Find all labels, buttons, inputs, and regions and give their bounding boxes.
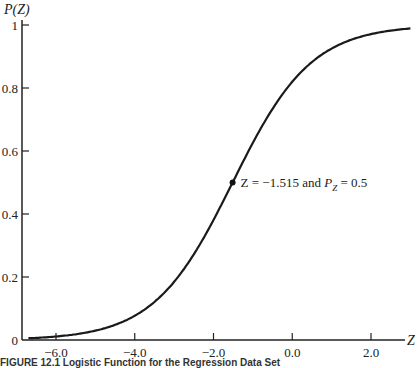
- x-tick-label: 2.0: [363, 345, 379, 360]
- y-axis-title: P(Z): [3, 2, 30, 18]
- x-tick-label: 0.0: [284, 345, 300, 360]
- midpoint-marker: [230, 180, 236, 186]
- chart: P(Z) Z −6.0−4.0−2.00.02.0 00.20.40.60.81…: [0, 0, 418, 368]
- y-tick-label: 0.6: [2, 144, 19, 159]
- x-axis-title: Z: [407, 333, 415, 348]
- y-tick-label: 0.2: [2, 270, 18, 285]
- x-ticks: −6.0−4.0−2.00.02.0: [44, 333, 379, 360]
- y-tick-label: 0.8: [2, 81, 18, 96]
- annotation-text: Z = −1.515 and: [241, 175, 325, 190]
- y-tick-label: 0: [12, 333, 19, 348]
- y-tick-label: 0.4: [2, 207, 19, 222]
- y-tick-label: 1: [12, 18, 19, 33]
- annotation-value: = 0.5: [337, 175, 367, 190]
- midpoint-annotation: Z = −1.515 and PZ = 0.5: [241, 175, 368, 193]
- figure-caption: FIGURE 12.1 Logistic Function for the Re…: [0, 357, 280, 368]
- annotation-p: P: [323, 175, 332, 190]
- y-ticks: 00.20.40.60.81: [2, 18, 29, 348]
